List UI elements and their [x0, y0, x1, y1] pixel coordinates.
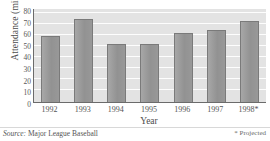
source-label: Source: — [3, 129, 26, 138]
y-tick-60: 60 — [24, 31, 32, 39]
y-tick-0: 0 — [27, 101, 31, 109]
x-axis-title: Year — [33, 116, 265, 126]
bar-slot — [34, 9, 67, 102]
plot-area — [33, 9, 266, 103]
x-tick-1996: 1996 — [166, 104, 199, 115]
y-tick-10: 10 — [24, 89, 32, 97]
y-tick-30: 30 — [24, 66, 32, 74]
y-tick-80: 80 — [24, 8, 32, 16]
projected-note: * Projected — [234, 129, 266, 137]
source-note: Source: Major League Baseball — [3, 129, 98, 138]
chart-figure: Attendance (millions) 80 70 60 50 40 30 … — [0, 0, 270, 141]
bar-slot — [100, 9, 133, 102]
y-tick-20: 20 — [24, 78, 32, 86]
y-tick-40: 40 — [24, 54, 32, 62]
bar-1994 — [107, 44, 126, 102]
bar-slot — [200, 9, 233, 102]
bar-1992 — [41, 36, 60, 102]
x-tick-1992: 1992 — [33, 104, 66, 115]
x-axis-tick-labels: 1992 1993 1994 1995 1996 1997 1998* — [33, 104, 265, 115]
x-tick-1997: 1997 — [199, 104, 232, 115]
x-tick-1998: 1998* — [232, 104, 265, 115]
bar-1995 — [140, 44, 159, 102]
y-tick-70: 70 — [24, 20, 32, 28]
bar-1997 — [207, 30, 226, 102]
bar-slot — [233, 9, 266, 102]
bar-slot — [167, 9, 200, 102]
x-tick-1994: 1994 — [99, 104, 132, 115]
bar-slot — [133, 9, 166, 102]
bar-1996 — [174, 33, 193, 102]
bar-slot — [67, 9, 100, 102]
footer-divider — [0, 127, 270, 128]
bar-1993 — [74, 19, 93, 102]
bar-series — [34, 9, 266, 102]
x-tick-1993: 1993 — [66, 104, 99, 115]
x-tick-1995: 1995 — [132, 104, 165, 115]
source-value: Major League Baseball — [28, 129, 98, 138]
y-tick-50: 50 — [24, 43, 32, 51]
bar-1998 — [240, 21, 259, 102]
y-axis-tick-labels: 80 70 60 50 40 30 20 10 0 — [17, 8, 31, 102]
